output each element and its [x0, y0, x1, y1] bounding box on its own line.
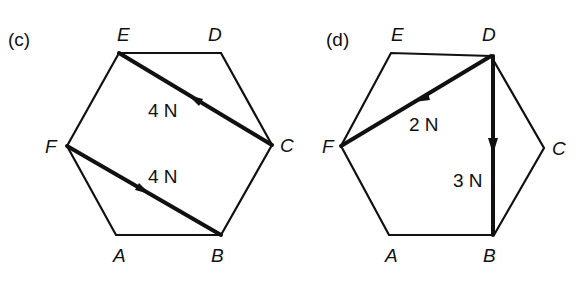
hexagon-c [67, 53, 272, 235]
arrowhead-d-to-b [488, 138, 498, 154]
vertex-label-d: D [208, 24, 222, 45]
hexagon-d [341, 53, 544, 235]
force-diagrams: (c) 4 N 4 N A B C D E F (d) 2 N 3 N A B … [0, 0, 578, 281]
vertex-label-d: D [482, 24, 496, 45]
vertex-label-e: E [391, 24, 404, 45]
vertex-label-a: A [112, 245, 126, 266]
force-label-ce: 4 N [148, 100, 178, 121]
vertex-label-a: A [384, 245, 398, 266]
figure-d: (d) 2 N 3 N A B C D E F [322, 24, 566, 266]
vertex-label-c: C [280, 135, 294, 156]
vertex-label-e: E [117, 24, 130, 45]
panel-label-c: (c) [8, 29, 30, 50]
force-label-df: 2 N [409, 114, 439, 135]
arrowhead-d-to-f [414, 93, 430, 102]
vertex-label-f: F [322, 136, 335, 157]
vertex-label-b: B [483, 245, 496, 266]
vertex-label-c: C [552, 138, 566, 159]
force-label-fb: 4 N [148, 166, 178, 187]
vertex-label-f: F [45, 136, 58, 157]
figure-c: (c) 4 N 4 N A B C D E F [8, 24, 294, 266]
panel-label-d: (d) [326, 29, 349, 50]
vertex-label-b: B [211, 245, 224, 266]
force-label-db: 3 N [453, 170, 483, 191]
